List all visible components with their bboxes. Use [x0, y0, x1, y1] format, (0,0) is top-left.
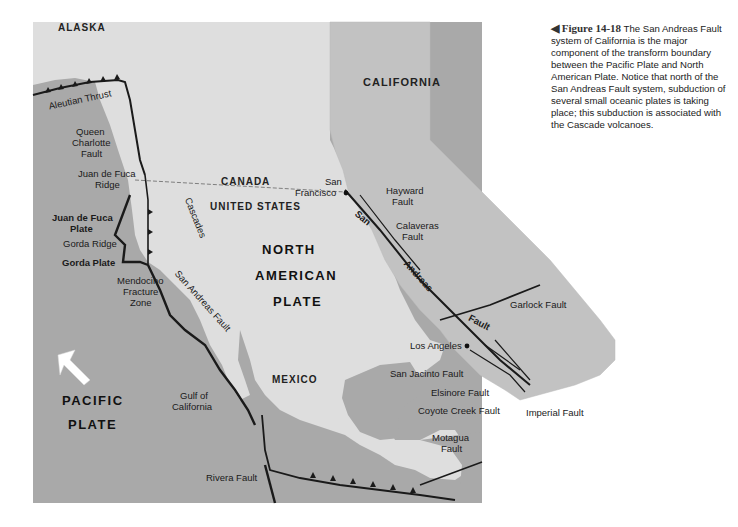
mendocino-line2: Fracture	[123, 286, 158, 297]
gulf-of-california-line2: California	[172, 401, 212, 412]
north-american-plate-line2: AMERICAN	[255, 268, 337, 283]
caption-marker: ◀	[551, 22, 559, 34]
queen-charlotte-line1: Queen	[76, 126, 105, 137]
queen-charlotte-line2: Charlotte	[72, 137, 111, 148]
queen-charlotte-line3: Fault	[81, 148, 102, 159]
pacific-plate-line1: PACIFIC	[62, 393, 124, 408]
san-francisco-dot	[344, 191, 349, 196]
gulf-of-california-line1: Gulf of	[180, 390, 208, 401]
label-california: CALIFORNIA	[363, 76, 441, 88]
san-francisco-line2: Francisco	[295, 187, 336, 198]
calaveras-line1: Calaveras	[396, 220, 439, 231]
motagua-line2: Fault	[441, 443, 462, 454]
figure: ◀ Figure 14-18 The San Andreas Fault sys…	[0, 0, 738, 527]
calaveras-line2: Fault	[402, 231, 423, 242]
mendocino-line1: Mendocino	[117, 275, 163, 286]
imperial-fault-label: Imperial Fault	[526, 407, 584, 418]
juan-de-fuca-ridge-line2: Ridge	[95, 179, 120, 190]
elsinore-fault-label: Elsinore Fault	[431, 387, 489, 398]
los-angeles-dot	[465, 344, 470, 349]
label-canada: CANADA	[221, 176, 270, 187]
juan-de-fuca-plate-line1: Juan de Fuca	[52, 212, 113, 223]
pacific-plate-line2: PLATE	[68, 417, 117, 432]
san-francisco-line1: San	[325, 176, 342, 187]
coyote-creek-fault-label: Coyote Creek Fault	[418, 405, 500, 416]
hayward-line1: Hayward	[386, 185, 424, 196]
figure-caption: ◀ Figure 14-18 The San Andreas Fault sys…	[551, 22, 736, 131]
caption-text: The San Andreas Fault system of Californ…	[551, 23, 725, 130]
garlock-fault-label: Garlock Fault	[510, 299, 567, 310]
label-mexico: MEXICO	[272, 374, 317, 385]
figure-label: Figure 14-18	[562, 22, 621, 34]
label-united-states: UNITED STATES	[210, 201, 301, 212]
motagua-line1: Motagua	[432, 432, 469, 443]
label-alaska: ALASKA	[58, 22, 106, 33]
gorda-plate-label: Gorda Plate	[62, 257, 115, 268]
mendocino-line3: Zone	[130, 297, 152, 308]
juan-de-fuca-plate-line2: Plate	[70, 223, 93, 234]
north-american-plate-line1: NORTH	[262, 242, 316, 257]
rivera-fault-label: Rivera Fault	[206, 472, 257, 483]
los-angeles-label: Los Angeles	[410, 340, 462, 351]
north-american-plate-line3: PLATE	[273, 294, 322, 309]
san-jacinto-fault-label: San Jacinto Fault	[390, 368, 463, 379]
juan-de-fuca-ridge-line1: Juan de Fuca	[78, 168, 136, 179]
hayward-line2: Fault	[392, 196, 413, 207]
gorda-ridge-label: Gorda Ridge	[63, 238, 117, 249]
